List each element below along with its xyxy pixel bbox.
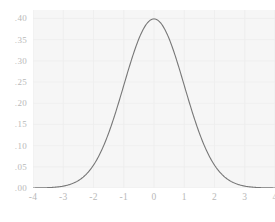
y-tick-label: .00 <box>15 183 27 193</box>
x-tick-label: 0 <box>151 192 156 202</box>
y-tick-label: .05 <box>15 162 27 172</box>
x-tick-label: -3 <box>59 192 68 202</box>
y-tick-label: .40 <box>15 13 27 23</box>
x-tick-label: 4 <box>272 192 275 202</box>
y-tick-label: .35 <box>15 35 27 45</box>
x-tick-label: -2 <box>89 192 98 202</box>
x-tick-label: 2 <box>212 192 217 202</box>
y-tick-label: .30 <box>15 56 27 66</box>
x-axis-tick-labels: -4-3-2-101234 <box>33 192 275 212</box>
y-tick-label: .25 <box>15 77 27 87</box>
x-tick-label: -1 <box>119 192 128 202</box>
y-tick-label: .20 <box>15 98 27 108</box>
plot-panel <box>33 10 275 188</box>
x-tick-label: -4 <box>29 192 38 202</box>
y-tick-label: .15 <box>15 119 27 129</box>
x-tick-label: 1 <box>182 192 187 202</box>
density-curve <box>33 10 275 188</box>
x-tick-label: 3 <box>242 192 247 202</box>
normal-distribution-chart: .00.05.10.15.20.25.30.35.40 -4-3-2-10123… <box>0 0 275 222</box>
y-axis-tick-labels: .00.05.10.15.20.25.30.35.40 <box>0 10 30 188</box>
y-tick-label: .10 <box>15 141 27 151</box>
